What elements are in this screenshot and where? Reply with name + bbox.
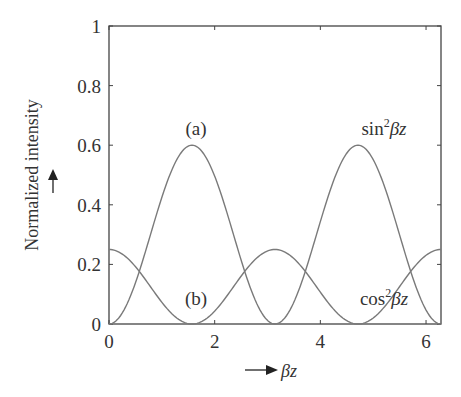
plot-frame bbox=[109, 26, 441, 324]
x-tick-label: 4 bbox=[316, 331, 326, 352]
annotation-sin2: sin2βz bbox=[361, 116, 407, 139]
y-tick-label: 0.6 bbox=[77, 135, 101, 156]
annotation-a: (a) bbox=[185, 118, 206, 140]
y-tick-label: 0 bbox=[92, 314, 102, 335]
y-tick-label: 0.8 bbox=[77, 76, 101, 97]
x-axis-arrow-icon bbox=[245, 365, 278, 375]
x-tick-label: 6 bbox=[421, 331, 431, 352]
x-tick-label: 0 bbox=[104, 331, 114, 352]
annotation-cos2: cos2βz bbox=[360, 286, 409, 309]
chart: 024600.20.40.60.81 (a) (b) sin2βz cos2βz… bbox=[0, 0, 461, 397]
x-axis-label: βz bbox=[280, 361, 297, 381]
y-axis-label: Normalized intensity bbox=[22, 99, 42, 250]
cos-argument: βz bbox=[390, 288, 408, 309]
sin-text: sin bbox=[361, 118, 384, 139]
annotation-b: (b) bbox=[185, 288, 207, 310]
sin-argument: βz bbox=[389, 118, 407, 139]
y-tick-label: 0.4 bbox=[77, 195, 101, 216]
y-axis-arrow-icon bbox=[48, 169, 58, 193]
axis-ticks: 024600.20.40.60.81 bbox=[77, 16, 441, 352]
cos-text: cos bbox=[360, 288, 385, 309]
y-tick-label: 1 bbox=[92, 16, 102, 37]
x-tick-label: 2 bbox=[210, 331, 220, 352]
y-tick-label: 0.2 bbox=[77, 254, 101, 275]
